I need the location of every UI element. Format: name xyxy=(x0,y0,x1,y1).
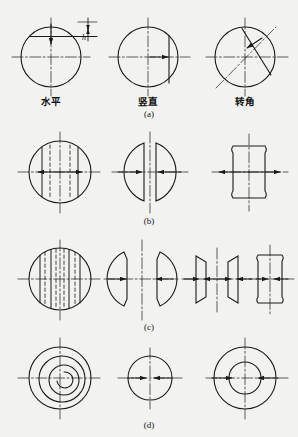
label-horizontal: 水平 xyxy=(26,94,76,108)
label-corner: 转角 xyxy=(220,94,270,108)
row-d-item-3 xyxy=(206,338,288,419)
row-c-item-4 xyxy=(250,245,294,314)
row-c-item-3 xyxy=(182,248,252,312)
label-vertical: 竖直 xyxy=(123,94,173,108)
row-a-item-3-corner xyxy=(206,18,288,96)
technical-diagram-figure: h 水平 竖直 转角 (a) (b) (c) (d) xyxy=(0,0,298,437)
row-b-item-1 xyxy=(18,132,100,213)
row-c-item-2 xyxy=(104,240,178,320)
row-caption-d: (d) xyxy=(0,420,298,430)
row-b-item-2 xyxy=(112,132,188,213)
row-a-item-2-vertical xyxy=(109,18,190,96)
row-c-item-1 xyxy=(18,240,100,320)
row-caption-b: (b) xyxy=(0,216,298,226)
row-d-item-1 xyxy=(18,338,100,419)
row-caption-a: (a) xyxy=(0,109,298,119)
row-b-item-3 xyxy=(212,134,288,211)
dimension-label-h: h xyxy=(82,26,96,44)
row-d-item-2 xyxy=(118,348,182,409)
row-caption-c: (c) xyxy=(0,322,298,332)
